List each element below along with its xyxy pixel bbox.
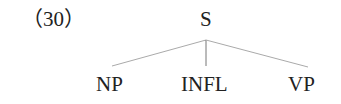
tree-node-np: NP: [96, 74, 123, 95]
edge-s-np: [112, 40, 206, 66]
edge-s-vp: [206, 40, 308, 67]
tree-node-vp: VP: [288, 74, 315, 95]
tree-node-infl: INFL: [181, 74, 228, 95]
tree-node-s: S: [200, 9, 212, 30]
